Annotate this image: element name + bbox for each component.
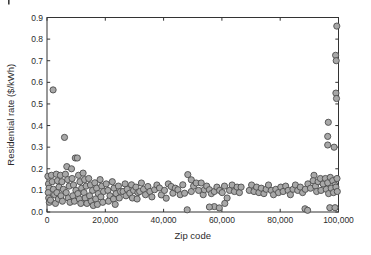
- data-point: [163, 195, 169, 201]
- y-tick-label: 0.2: [31, 164, 43, 174]
- data-point: [206, 204, 212, 210]
- residential-rate-scatter-chart: 020,00040,00060,00080,000100,0000.00.10.…: [0, 0, 371, 255]
- y-tick-label: 0.1: [31, 185, 43, 195]
- y-tick-label: 0.8: [31, 34, 43, 44]
- data-point: [325, 142, 331, 148]
- data-point: [61, 134, 67, 140]
- data-point: [331, 144, 337, 150]
- y-tick-label: 0.5: [31, 99, 43, 109]
- scatter-figure: 020,00040,00060,00080,000100,0000.00.10.…: [0, 0, 371, 255]
- y-tick-label: 0.3: [31, 142, 43, 152]
- data-point: [161, 187, 167, 193]
- y-tick-label: 0.7: [31, 56, 43, 66]
- data-point: [334, 23, 340, 29]
- data-point: [325, 133, 331, 139]
- data-point: [325, 119, 331, 125]
- data-point: [112, 201, 118, 207]
- data-point: [334, 188, 340, 194]
- cropped-figure-label-fragment: [8, 0, 10, 5]
- x-tick-label: 60,000: [209, 215, 235, 225]
- data-point: [182, 190, 188, 196]
- data-point: [180, 182, 186, 188]
- data-point: [332, 205, 338, 211]
- x-tick-label: 40,000: [151, 215, 177, 225]
- data-point: [138, 180, 144, 186]
- data-point: [50, 87, 56, 93]
- data-point: [149, 194, 155, 200]
- data-point: [59, 198, 65, 204]
- data-point: [109, 179, 115, 185]
- data-point: [334, 175, 340, 181]
- data-point: [68, 166, 74, 172]
- y-axis-label: Residential rate ($/kWh): [5, 64, 16, 166]
- data-point: [333, 58, 339, 64]
- y-tick-label: 0.6: [31, 77, 43, 87]
- data-point: [78, 200, 84, 206]
- data-point: [238, 184, 244, 190]
- y-tick-label: 0.4: [31, 121, 43, 131]
- data-point: [59, 179, 65, 185]
- y-tick-label: 0.0: [31, 207, 43, 217]
- data-point: [222, 200, 228, 206]
- data-point: [134, 196, 140, 202]
- data-point: [216, 205, 222, 211]
- x-tick-label: 80,000: [267, 215, 293, 225]
- data-point: [86, 175, 92, 181]
- x-axis-label: Zip code: [175, 230, 211, 241]
- data-point: [74, 155, 80, 161]
- data-point: [305, 207, 311, 213]
- data-point: [219, 190, 225, 196]
- scatter-points: [45, 23, 341, 213]
- x-tick-label: 100,000: [323, 215, 354, 225]
- data-point: [97, 177, 103, 183]
- data-point: [69, 175, 75, 181]
- data-point: [80, 170, 86, 176]
- data-point: [100, 199, 106, 205]
- data-point: [333, 95, 339, 101]
- data-point: [184, 207, 190, 213]
- data-point: [103, 181, 109, 187]
- data-point: [116, 195, 122, 201]
- y-tick-label: 0.9: [31, 13, 43, 23]
- x-tick-label: 20,000: [92, 215, 118, 225]
- x-tick-label: 0: [45, 215, 50, 225]
